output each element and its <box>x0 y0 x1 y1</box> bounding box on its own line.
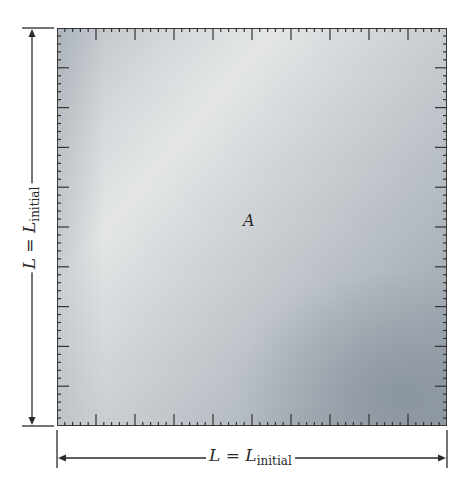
width-dimension-label: L = Linitial <box>206 445 295 471</box>
ruler-ticks-and-dimension-arrows <box>0 0 464 492</box>
equals-sign: = <box>19 238 39 252</box>
symbol-L: L <box>19 222 39 233</box>
equals-sign: = <box>226 445 240 465</box>
region-label: A <box>243 211 255 230</box>
symbol-L: L <box>19 258 39 269</box>
height-dimension-label: L = Linitial <box>19 184 45 273</box>
subscript-initial: initial <box>28 187 42 222</box>
symbol-L: L <box>209 445 220 465</box>
subscript-initial: initial <box>257 454 292 468</box>
symbol-L: L <box>245 445 256 465</box>
